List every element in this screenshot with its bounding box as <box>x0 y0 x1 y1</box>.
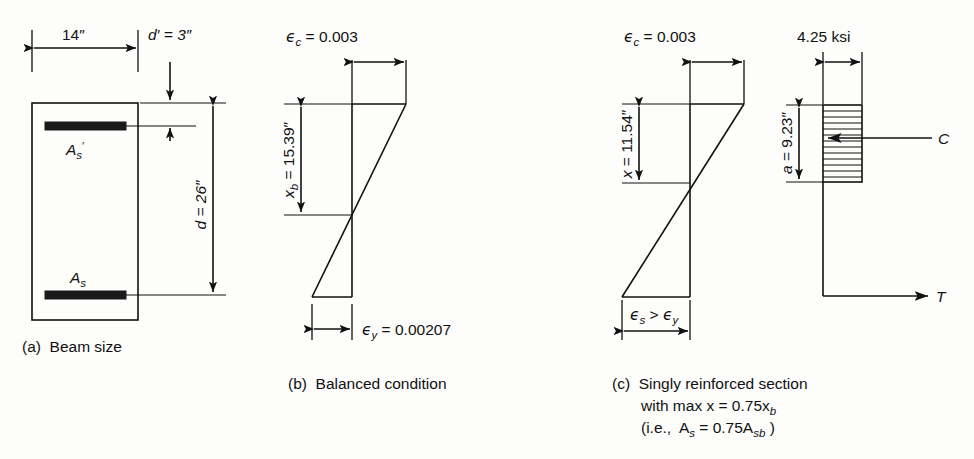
strain-diagonal-c <box>622 104 744 297</box>
stress-block-hatching <box>823 111 862 177</box>
label-ec-c: ϵc = 0.003 <box>624 28 696 48</box>
caption-panel-c-line3: (i.e., As = 0.75Asb ) <box>641 419 775 439</box>
label-beam-width: 14″ <box>62 26 85 43</box>
label-force-T: T <box>936 288 947 305</box>
bottom-steel-bar <box>45 291 126 299</box>
figure-svg: 14″ d′ = 3″ d = 26″ As′ As (a) Beam size <box>0 0 974 459</box>
figure-root: 14″ d′ = 3″ d = 26″ As′ As (a) Beam size <box>0 0 974 459</box>
label-cover: d′ = 3″ <box>148 26 192 43</box>
panel-c-caption: (c) Singly reinforced section with max x… <box>612 375 808 439</box>
label-bottom-steel: As <box>69 269 86 289</box>
label-stress-value: 4.25 ksi <box>797 28 850 45</box>
label-xb: xb = 15.39″ <box>280 121 300 199</box>
strain-diagonal-b <box>312 104 406 297</box>
top-steel-bar <box>45 122 126 130</box>
label-ec-b: ϵc = 0.003 <box>286 28 358 48</box>
panel-b-balanced-strain: ϵc = 0.003 xb = 15.39″ ϵy = 0.00207 (b) … <box>280 28 451 392</box>
caption-panel-c-line2: with max x = 0.75xb <box>640 397 777 417</box>
caption-panel-b: (b) Balanced condition <box>288 375 447 392</box>
label-top-steel: As′ <box>65 140 84 161</box>
panel-d-stress-block: 4.25 ksi a = 9.23″ C T <box>778 28 950 305</box>
label-ey-b: ϵy = 0.00207 <box>362 321 451 341</box>
panel-c-strain: ϵc = 0.003 x = 11.54″ ϵs > ϵy <box>618 28 744 340</box>
label-es-gt-ey: ϵs > ϵy <box>630 306 680 326</box>
label-a-depth: a = 9.23″ <box>778 112 795 174</box>
label-x-c: x = 11.54″ <box>618 109 635 179</box>
label-effective-depth: d = 26″ <box>192 180 209 230</box>
panel-a-beam-section: 14″ d′ = 3″ d = 26″ As′ As (a) Beam size <box>22 26 226 355</box>
label-force-C: C <box>938 130 950 147</box>
caption-panel-a: (a) Beam size <box>22 338 122 355</box>
caption-panel-c-line1: (c) Singly reinforced section <box>612 375 808 392</box>
